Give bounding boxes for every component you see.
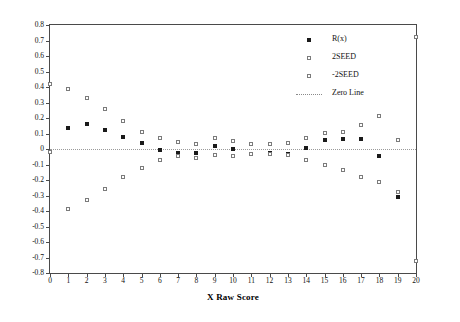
data-point <box>359 175 363 179</box>
data-point <box>140 166 144 170</box>
x-axis-tick-label: 12 <box>266 277 274 285</box>
data-point <box>268 142 272 146</box>
data-point <box>396 138 400 142</box>
legend-square-swatch <box>307 74 311 78</box>
x-axis-tick-label: 7 <box>176 277 180 285</box>
y-axis-tick <box>46 196 50 197</box>
y-axis-tick-label: -0.5 <box>32 223 44 231</box>
y-axis-tick <box>46 242 50 243</box>
y-axis-tick-label: 0 <box>40 145 44 153</box>
x-axis-tick-label: 2 <box>85 277 89 285</box>
data-point <box>231 147 235 151</box>
data-point <box>194 151 198 155</box>
data-point <box>103 107 107 111</box>
data-point <box>176 154 180 158</box>
data-point <box>176 140 180 144</box>
legend-marker-dotted-line <box>296 92 322 96</box>
data-point <box>213 144 217 148</box>
data-point <box>323 131 327 135</box>
data-point <box>341 168 345 172</box>
y-axis-tick-label: -0.1 <box>32 161 44 169</box>
data-point <box>121 175 125 179</box>
x-axis-tick-label: 6 <box>158 277 162 285</box>
legend-label: 2SEED <box>332 50 356 64</box>
legend-marker-open-square <box>296 74 322 78</box>
data-point <box>249 152 253 156</box>
legend-square-swatch <box>307 38 311 42</box>
data-point <box>194 156 198 160</box>
legend-line-swatch <box>296 94 322 95</box>
x-axis-tick-label: 3 <box>103 277 107 285</box>
data-point <box>414 35 418 39</box>
data-point <box>158 158 162 162</box>
data-point <box>85 198 89 202</box>
legend-label: R(x) <box>332 32 347 46</box>
legend-row[interactable]: Zero Line <box>296 85 408 103</box>
x-axis-tick-label: 16 <box>339 277 347 285</box>
x-axis-tick-label: 8 <box>195 277 199 285</box>
data-point <box>231 154 235 158</box>
x-axis-tick-label: 13 <box>284 277 292 285</box>
y-axis-tick-label: -0.2 <box>32 176 44 184</box>
legend-row[interactable]: -2SEED <box>296 67 408 85</box>
y-axis-tick <box>46 72 50 73</box>
data-point <box>396 195 400 199</box>
chart-legend: R(x)2SEED-2SEEDZero Line <box>296 31 408 103</box>
y-axis-tick-label: 0.5 <box>35 68 44 76</box>
x-axis-title: X Raw Score <box>49 292 417 302</box>
data-point <box>304 136 308 140</box>
y-axis-tick <box>46 87 50 88</box>
data-point <box>66 207 70 211</box>
x-axis-tick-label: 1 <box>66 277 70 285</box>
y-axis-tick <box>46 165 50 166</box>
data-point <box>140 141 144 145</box>
data-point <box>323 163 327 167</box>
data-point <box>66 126 70 130</box>
data-point <box>158 148 162 152</box>
data-point <box>377 114 381 118</box>
data-point <box>414 259 418 263</box>
y-axis-tick <box>46 258 50 259</box>
legend-row[interactable]: R(x) <box>296 31 408 49</box>
y-axis-tick-label: 0.7 <box>35 37 44 45</box>
figure: 0.80.70.60.50.40.30.20.10-0.1-0.2-0.3-0.… <box>0 0 460 322</box>
y-axis-tick <box>46 25 50 26</box>
legend-row[interactable]: 2SEED <box>296 49 408 67</box>
data-point <box>304 158 308 162</box>
data-point <box>323 138 327 142</box>
data-point <box>48 150 52 154</box>
x-axis-tick-label: 10 <box>229 277 237 285</box>
x-axis-tick-label: 0 <box>48 277 52 285</box>
data-point <box>304 146 308 150</box>
data-point <box>377 180 381 184</box>
x-axis-tick-label: 18 <box>376 277 384 285</box>
y-axis-tick <box>46 56 50 57</box>
data-point <box>377 154 381 158</box>
data-point <box>359 123 363 127</box>
y-axis-tick-label: -0.8 <box>32 269 44 277</box>
y-axis-tick <box>46 211 50 212</box>
y-axis-tick-label: 0.6 <box>35 52 44 60</box>
data-point <box>121 135 125 139</box>
data-point <box>231 139 235 143</box>
x-axis-tick-label: 4 <box>121 277 125 285</box>
x-axis-tick-label: 19 <box>394 277 402 285</box>
y-axis-tick-label: -0.7 <box>32 254 44 262</box>
y-axis-tick-label: 0.8 <box>35 21 44 29</box>
legend-square-swatch <box>307 56 311 60</box>
y-axis-tick <box>46 118 50 119</box>
data-point <box>286 153 290 157</box>
x-axis-tick-label: 5 <box>140 277 144 285</box>
x-axis-tick-label: 20 <box>412 277 420 285</box>
y-axis-tick-label: 0.4 <box>35 83 44 91</box>
data-point <box>268 152 272 156</box>
y-axis-tick-label: 0.1 <box>35 130 44 138</box>
x-axis-tick-label: 11 <box>248 277 255 285</box>
data-point <box>158 136 162 140</box>
x-axis-tick-label: 14 <box>302 277 310 285</box>
y-axis-tick-label: 0.3 <box>35 99 44 107</box>
data-point <box>213 136 217 140</box>
legend-label: -2SEED <box>332 68 359 82</box>
data-point <box>249 142 253 146</box>
legend-marker-open-square <box>296 56 322 60</box>
